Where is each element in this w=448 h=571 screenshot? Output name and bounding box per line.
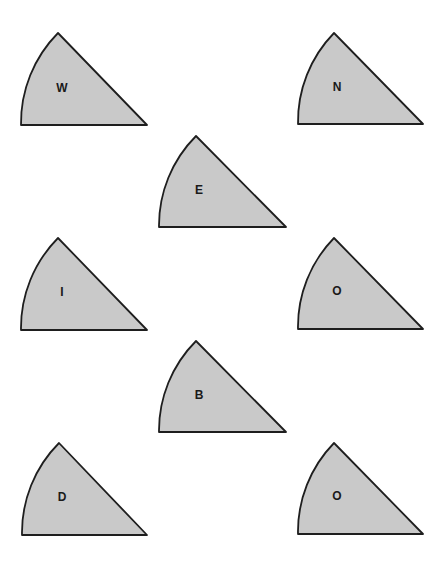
piece-w: W [21,33,147,125]
piece-label: D [58,490,67,504]
piece-label: O [332,489,341,503]
sector-shape [21,33,147,125]
piece-label: E [195,183,203,197]
piece-e: E [159,136,286,227]
sector-shape [159,136,286,227]
piece-label: N [333,80,342,94]
sector-shape [21,238,147,330]
piece-o-bottom: O [298,443,423,534]
sector-shape [22,443,147,535]
sector-shape [298,238,423,329]
piece-label: O [332,284,341,298]
piece-n: N [298,33,423,124]
piece-b: B [159,341,286,432]
piece-label: W [56,81,68,95]
piece-o-middle: O [298,238,423,329]
piece-label: I [60,285,63,299]
sector-shape [298,443,423,534]
piece-i: I [21,238,147,330]
puzzle-pieces-canvas: W N E I O B D O [0,0,448,571]
piece-label: B [195,388,204,402]
sector-shape [159,341,286,432]
piece-d: D [22,443,147,535]
sector-shape [298,33,423,124]
